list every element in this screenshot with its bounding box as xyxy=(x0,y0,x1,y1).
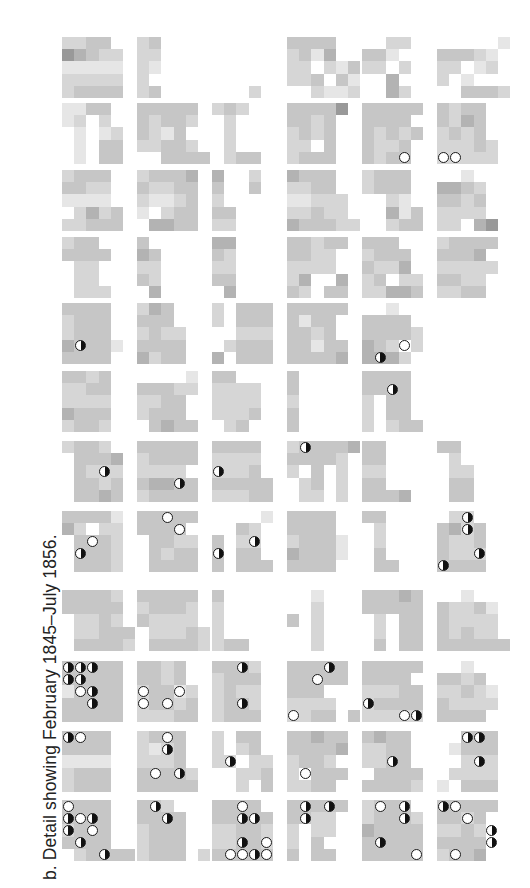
day-cell xyxy=(249,408,261,420)
day-cell xyxy=(74,194,86,206)
day-cell xyxy=(186,453,198,465)
day-cell xyxy=(236,383,248,395)
day-cell xyxy=(74,755,86,767)
day-cell xyxy=(137,441,149,453)
day-cell xyxy=(287,74,299,86)
day-cell xyxy=(161,768,173,780)
day-cell xyxy=(486,219,498,231)
day-cell xyxy=(449,478,461,490)
day-cell xyxy=(362,249,374,261)
day-cell xyxy=(174,812,186,824)
day-cell xyxy=(224,115,236,127)
day-cell xyxy=(399,37,411,49)
day-cell xyxy=(311,453,323,465)
day-cell xyxy=(186,602,198,614)
day-cell xyxy=(149,478,161,490)
day-cell xyxy=(99,115,111,127)
half-circle-marker-icon xyxy=(300,813,311,824)
day-cell xyxy=(324,535,336,547)
day-cell xyxy=(74,371,86,383)
day-cell xyxy=(224,408,236,420)
day-cell xyxy=(149,61,161,73)
day-cell xyxy=(236,768,248,780)
day-cell xyxy=(99,812,111,824)
day-cell xyxy=(99,755,111,767)
day-cell xyxy=(186,511,198,523)
day-cell xyxy=(212,315,224,327)
day-cell xyxy=(74,824,86,836)
day-cell xyxy=(386,315,398,327)
day-cell xyxy=(287,237,299,249)
day-cell xyxy=(212,303,224,315)
day-cell xyxy=(86,441,98,453)
day-cell xyxy=(374,685,386,697)
day-cell xyxy=(86,478,98,490)
day-cell xyxy=(362,661,374,673)
day-cell xyxy=(399,207,411,219)
day-cell xyxy=(86,194,98,206)
day-cell xyxy=(399,408,411,420)
day-cell xyxy=(236,685,248,697)
day-cell xyxy=(449,673,461,685)
open-circle-marker-icon xyxy=(237,801,248,812)
day-cell xyxy=(174,103,186,115)
day-cell xyxy=(437,639,449,651)
day-cell xyxy=(137,315,149,327)
day-cell xyxy=(137,140,149,152)
day-cell xyxy=(299,74,311,86)
day-cell xyxy=(336,286,348,298)
day-cell xyxy=(362,371,374,383)
day-cell xyxy=(224,453,236,465)
day-cell xyxy=(399,590,411,602)
day-cell xyxy=(474,627,486,639)
day-cell xyxy=(486,49,498,61)
day-cell xyxy=(99,441,111,453)
day-cell xyxy=(474,140,486,152)
day-cell xyxy=(212,614,224,626)
day-cell xyxy=(186,639,198,651)
day-cell xyxy=(324,219,336,231)
day-cell xyxy=(287,800,299,812)
day-cell xyxy=(336,103,348,115)
half-circle-marker-icon xyxy=(300,801,311,812)
day-cell xyxy=(324,61,336,73)
day-cell xyxy=(486,768,498,780)
day-cell xyxy=(62,371,74,383)
day-cell xyxy=(137,812,149,824)
day-cell xyxy=(299,490,311,502)
day-cell xyxy=(374,743,386,755)
day-cell xyxy=(399,698,411,710)
day-cell xyxy=(362,743,374,755)
day-cell xyxy=(311,743,323,755)
day-cell xyxy=(336,61,348,73)
day-cell xyxy=(449,237,461,249)
day-cell xyxy=(362,395,374,407)
day-cell xyxy=(111,207,123,219)
day-cell xyxy=(186,780,198,792)
day-cell xyxy=(287,824,299,836)
day-cell xyxy=(99,731,111,743)
day-cell xyxy=(461,614,473,626)
day-cell xyxy=(336,743,348,755)
day-cell xyxy=(86,560,98,572)
day-cell xyxy=(137,673,149,685)
day-cell xyxy=(212,627,224,639)
day-cell xyxy=(324,152,336,164)
day-cell xyxy=(212,207,224,219)
day-cell xyxy=(149,465,161,477)
day-cell xyxy=(161,420,173,432)
day-cell xyxy=(311,327,323,339)
day-cell xyxy=(287,673,299,685)
day-cell xyxy=(99,315,111,327)
day-cell xyxy=(287,420,299,432)
half-circle-marker-icon xyxy=(462,512,473,523)
day-cell xyxy=(249,800,261,812)
day-cell xyxy=(374,478,386,490)
day-cell xyxy=(74,441,86,453)
day-cell xyxy=(411,327,423,339)
day-cell xyxy=(86,590,98,602)
day-cell xyxy=(324,352,336,364)
day-cell xyxy=(299,170,311,182)
day-cell xyxy=(474,194,486,206)
day-cell xyxy=(449,182,461,194)
